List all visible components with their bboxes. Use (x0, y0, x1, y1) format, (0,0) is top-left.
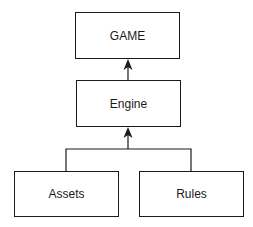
hierarchy-diagram: GAME Engine Assets Rules (0, 0, 253, 227)
node-engine: Engine (76, 80, 181, 127)
node-rules: Rules (139, 171, 244, 217)
node-label: Engine (110, 97, 147, 111)
node-label: Assets (48, 187, 84, 201)
node-label: GAME (110, 29, 145, 43)
node-game: GAME (75, 12, 180, 59)
node-assets: Assets (14, 171, 119, 217)
node-label: Rules (176, 187, 207, 201)
edge-branch-assets-rules (66, 149, 191, 171)
